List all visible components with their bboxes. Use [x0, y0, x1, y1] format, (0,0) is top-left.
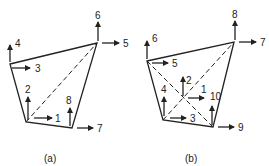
dof-label-2: 2 [186, 75, 192, 86]
dof-label-2: 2 [25, 84, 31, 95]
figure: 1 2 3 4 5 6 7 8 (a) 1 2 3 4 5 6 7 8 9 10 [0, 0, 269, 166]
dof-label-10: 10 [210, 91, 222, 102]
dof-label-6: 6 [95, 10, 101, 21]
element-diagram-a: 1 2 3 4 5 6 7 8 (a) [10, 10, 129, 164]
caption-a: (a) [44, 153, 56, 164]
dof-label-6: 6 [152, 33, 158, 44]
dof-label-7: 7 [97, 123, 103, 134]
dof-label-1: 1 [201, 84, 207, 95]
dof-label-7: 7 [260, 37, 266, 48]
dof-label-3: 3 [190, 113, 196, 124]
element-diagram-b: 1 2 3 4 5 6 7 8 9 10 (b) [147, 9, 266, 164]
quad-outline-a [10, 43, 97, 128]
dashed-diagonal-a [26, 43, 97, 122]
dof-label-9: 9 [238, 122, 244, 133]
caption-b: (b) [185, 153, 197, 164]
dof-label-3: 3 [35, 63, 41, 74]
dof-label-8: 8 [232, 9, 238, 20]
dof-label-5: 5 [172, 58, 178, 69]
dof-label-4: 4 [161, 84, 167, 95]
dof-label-5: 5 [123, 38, 129, 49]
dashed-diagonal-b1 [163, 42, 234, 120]
dof-label-4: 4 [15, 38, 21, 49]
dof-label-8: 8 [66, 95, 72, 106]
dof-label-1: 1 [55, 113, 61, 124]
